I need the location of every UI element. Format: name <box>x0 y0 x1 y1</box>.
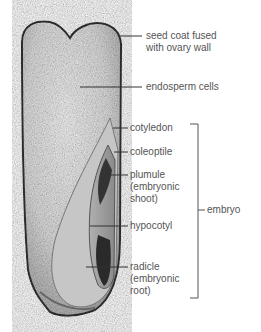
label-cotyledon: cotyledon <box>130 122 173 134</box>
label-seed-coat: seed coat fused with ovary wall <box>146 30 217 54</box>
label-plumule: plumule (embryonic shoot) <box>130 169 179 205</box>
embryo-bracket <box>190 124 198 298</box>
label-embryo: embryo <box>207 204 240 216</box>
label-radicle: radicle (embryonic root) <box>130 261 179 297</box>
label-hypocotyl: hypocotyl <box>130 220 172 232</box>
label-endosperm: endosperm cells <box>146 81 219 93</box>
label-coleoptile: coleoptile <box>130 146 172 158</box>
